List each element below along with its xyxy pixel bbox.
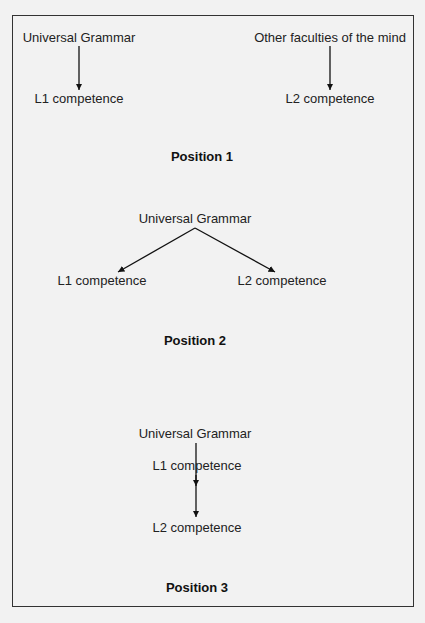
label-l2-competence-pos3: L2 competence [153,520,242,535]
label-other-faculties-pos1: Other faculties of the mind [254,30,406,45]
label-l1-competence-pos2: L1 competence [58,273,147,288]
label-universal-grammar-pos2: Universal Grammar [139,211,252,226]
label-l1-competence-pos1: L1 competence [35,91,124,106]
arrow-ug-to-l1-pos2 [118,228,195,272]
label-universal-grammar-pos3: Universal Grammar [139,426,252,441]
label-universal-grammar-pos1: Universal Grammar [23,30,136,45]
label-l1-competence-pos3: L1 competence [153,458,242,473]
arrow-ug-to-l2-pos2 [195,228,275,272]
heading-position-2: Position 2 [164,333,226,348]
label-l2-competence-pos2: L2 competence [238,273,327,288]
heading-position-1: Position 1 [171,149,233,164]
label-l2-competence-pos1: L2 competence [286,91,375,106]
heading-position-3: Position 3 [166,580,228,595]
